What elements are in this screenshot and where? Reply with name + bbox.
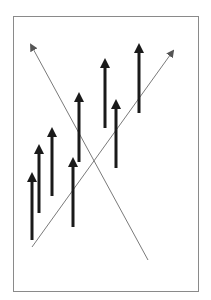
arrow-shaft [72,165,75,227]
arrow-shaft [104,66,107,128]
arrow-up-icon [34,144,44,154]
thick-up-arrow [27,172,37,240]
arrow-up-icon [68,157,78,167]
arrow-shaft [115,107,118,168]
thick-up-arrow [111,99,121,168]
thick-up-arrow [47,127,57,196]
arrow-shaft [38,152,41,213]
diagonal-falling-arrow [31,45,148,260]
arrow-up-icon [74,92,84,102]
arrow-shaft [51,135,54,196]
thick-up-arrow [68,157,78,227]
arrow-shaft [31,180,34,240]
arrow-up-icon [27,172,37,182]
diagram-canvas [0,0,211,300]
thick-up-arrow [100,58,110,128]
arrow-up-icon [100,58,110,68]
arrow-shaft [138,51,141,113]
thick-up-arrow [34,144,44,213]
arrow-up-icon [47,127,57,137]
arrow-up-icon [111,99,121,109]
arrow-shaft [78,100,81,162]
arrow-up-icon [134,43,144,53]
